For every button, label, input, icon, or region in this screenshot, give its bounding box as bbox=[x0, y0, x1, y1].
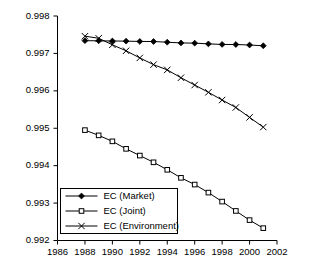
series-2-pt-9-marker-cross bbox=[205, 89, 211, 95]
series-1-pt-9-marker-square bbox=[206, 190, 211, 195]
legend-1-marker-square bbox=[79, 209, 84, 214]
series-0-pt-6-marker-diamond bbox=[164, 39, 170, 45]
series-0-pt-5-marker-diamond bbox=[151, 39, 157, 45]
series-0-pt-8-marker-diamond bbox=[192, 40, 198, 46]
series-0-pt-13-marker-diamond bbox=[260, 43, 266, 49]
x-tick-label: 1994 bbox=[157, 246, 178, 257]
x-tick-label: 1998 bbox=[212, 246, 233, 257]
line-chart: 0.9920.9930.9940.9950.9960.9970.998 1986… bbox=[0, 0, 330, 274]
series-2-pt-7-marker-cross bbox=[178, 75, 184, 81]
series-1-pt-5-marker-square bbox=[151, 160, 156, 165]
x-axis-ticks: 198619881990199219941996199820002002 bbox=[47, 241, 288, 257]
series-0-pt-12-marker-diamond bbox=[247, 42, 253, 48]
series-2-pt-4-marker-cross bbox=[137, 55, 143, 61]
series-1-pt-2-marker-square bbox=[110, 139, 115, 144]
y-tick-label: 0.997 bbox=[26, 47, 50, 58]
x-tick-label: 1988 bbox=[74, 246, 95, 257]
chart-legend: EC (Market)EC (Joint)EC (Environment) bbox=[61, 189, 180, 234]
series-1-pt-1-marker-square bbox=[96, 133, 101, 138]
series-1-pt-4-marker-square bbox=[138, 153, 143, 158]
series-ec-environment bbox=[82, 33, 267, 130]
series-1-pt-13-marker-square bbox=[261, 226, 266, 231]
series-1-pt-12-marker-square bbox=[247, 218, 252, 223]
series-2-pt-5-marker-cross bbox=[150, 61, 156, 67]
y-axis-ticks: 0.9920.9930.9940.9950.9960.9970.998 bbox=[26, 10, 58, 246]
y-tick-label: 0.995 bbox=[26, 122, 50, 133]
legend-label-0: EC (Market) bbox=[104, 190, 155, 201]
series-1-pt-3-marker-square bbox=[124, 147, 129, 152]
series-0-pt-9-marker-diamond bbox=[206, 41, 212, 47]
series-0-pt-7-marker-diamond bbox=[178, 40, 184, 46]
legend-label-1: EC (Joint) bbox=[104, 205, 146, 216]
series-1-pt-11-marker-square bbox=[234, 209, 239, 214]
series-1-pt-0-marker-square bbox=[83, 128, 88, 133]
x-tick-label: 1990 bbox=[102, 246, 123, 257]
series-0-pt-4-marker-diamond bbox=[137, 39, 143, 45]
series-2-pt-10-marker-cross bbox=[219, 97, 225, 103]
legend-label-2: EC (Environment) bbox=[104, 220, 180, 231]
y-tick-label: 0.992 bbox=[26, 234, 50, 245]
series-1-pt-7-marker-square bbox=[179, 176, 184, 181]
y-tick-label: 0.994 bbox=[26, 159, 50, 170]
series-1-pt-8-marker-square bbox=[192, 182, 197, 187]
series-2-pt-3-marker-cross bbox=[123, 48, 129, 54]
series-2-pt-11-marker-cross bbox=[233, 104, 239, 110]
chart-container: 0.9920.9930.9940.9950.9960.9970.998 1986… bbox=[0, 0, 330, 274]
series-0-pt-3-marker-diamond bbox=[123, 38, 129, 44]
series-2-pt-13-marker-cross bbox=[260, 124, 266, 130]
x-tick-label: 1992 bbox=[129, 246, 150, 257]
y-tick-label: 0.998 bbox=[26, 10, 50, 21]
series-2-pt-12-marker-cross bbox=[246, 114, 252, 120]
series-0-pt-11-marker-diamond bbox=[233, 42, 239, 48]
y-tick-label: 0.996 bbox=[26, 84, 50, 95]
series-0-pt-10-marker-diamond bbox=[219, 42, 225, 48]
x-tick-label: 2000 bbox=[239, 246, 260, 257]
x-tick-label: 1986 bbox=[47, 246, 68, 257]
x-tick-label: 2002 bbox=[266, 246, 287, 257]
y-tick-label: 0.993 bbox=[26, 197, 50, 208]
series-2-pt-6-marker-cross bbox=[164, 67, 170, 73]
series-1-pt-6-marker-square bbox=[165, 167, 170, 172]
series-1-pt-10-marker-square bbox=[220, 199, 225, 204]
x-tick-label: 1996 bbox=[184, 246, 205, 257]
series-2-pt-8-marker-cross bbox=[191, 82, 197, 88]
series-line-2 bbox=[85, 36, 263, 127]
